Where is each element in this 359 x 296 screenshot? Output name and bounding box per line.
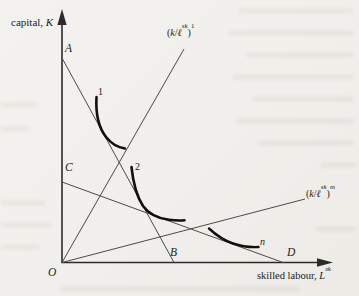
x-axis-label: skilled labour, Lsk xyxy=(257,270,331,282)
isoquant-curve-1 xyxy=(96,97,125,149)
point-label-b: B xyxy=(170,246,177,258)
isoquant-curve-2 xyxy=(132,167,185,221)
y-axis-arrowhead-icon xyxy=(57,9,66,25)
ray-steep-denominator-sup: sk xyxy=(182,22,188,30)
isoquant-label-1: 1 xyxy=(98,86,103,98)
isoquant-label-2: 2 xyxy=(135,161,140,173)
diagram-geometry xyxy=(0,0,359,296)
ray-shallow-line xyxy=(62,199,305,263)
ray-steep-label: (k/ℓsk)1 xyxy=(167,27,194,39)
y-axis-label: capital, K xyxy=(11,16,53,28)
point-label-a: A xyxy=(65,42,72,54)
isocost-line-ab xyxy=(62,58,174,263)
figure-canvas: capital, K skilled labour, Lsk O A C B D… xyxy=(0,0,359,296)
y-axis-label-text: capital, xyxy=(11,16,46,28)
ray-shallow-exponent: m xyxy=(330,183,335,191)
x-axis-label-text: skilled labour, xyxy=(257,270,319,281)
isoquant-label-n: n xyxy=(260,236,265,248)
point-label-d: D xyxy=(287,246,295,258)
point-label-c: C xyxy=(65,161,73,173)
x-axis-symbol-sup: sk xyxy=(325,265,331,273)
ray-steep-exponent: 1 xyxy=(191,22,195,30)
ray-shallow-denominator-sup: sk xyxy=(321,183,327,191)
ray-steep-line xyxy=(62,49,184,263)
y-axis-symbol: K xyxy=(46,16,53,28)
ray-shallow-label: (k/ℓsk)m xyxy=(306,188,335,200)
point-label-origin: O xyxy=(48,266,56,278)
